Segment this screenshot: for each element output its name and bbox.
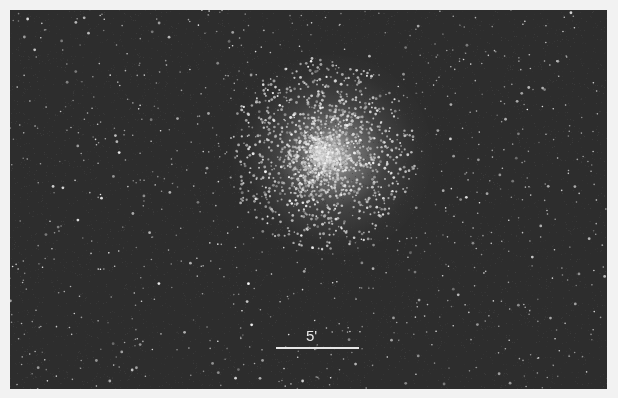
- star-field-image: 5': [10, 10, 607, 389]
- scale-bar-label: 5': [306, 328, 317, 343]
- scale-bar: [276, 347, 359, 349]
